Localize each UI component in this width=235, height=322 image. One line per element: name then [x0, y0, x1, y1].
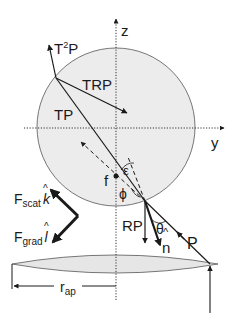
ray-optics-diagram: z y P RP ^ n θ TP TRP T2P ε ϕ f Fscatk ^…: [0, 0, 235, 322]
transmitted-reflected-label: TRP: [82, 76, 112, 93]
gradient-force-arrow: [53, 216, 78, 242]
y-axis-label: y: [211, 134, 219, 151]
incident-ray-label: P: [187, 235, 198, 252]
normal-label: n: [162, 239, 170, 256]
reflected-ray-label: RP: [122, 217, 143, 234]
normal-hat: ^: [163, 226, 169, 238]
focus-point: [114, 174, 119, 179]
twice-transmitted-label: T2P: [54, 40, 78, 57]
transmitted-ray-label: TP: [54, 106, 73, 123]
gradient-force-hat: ^: [44, 221, 49, 232]
scattering-force-hat: ^: [43, 183, 48, 194]
lens: [12, 255, 218, 273]
phi-label: ϕ: [119, 186, 127, 202]
z-axis-label: z: [121, 22, 129, 39]
epsilon-label: ε: [123, 163, 129, 178]
incident-ray-arrow: [177, 232, 184, 239]
theta-label: θ: [156, 221, 164, 237]
